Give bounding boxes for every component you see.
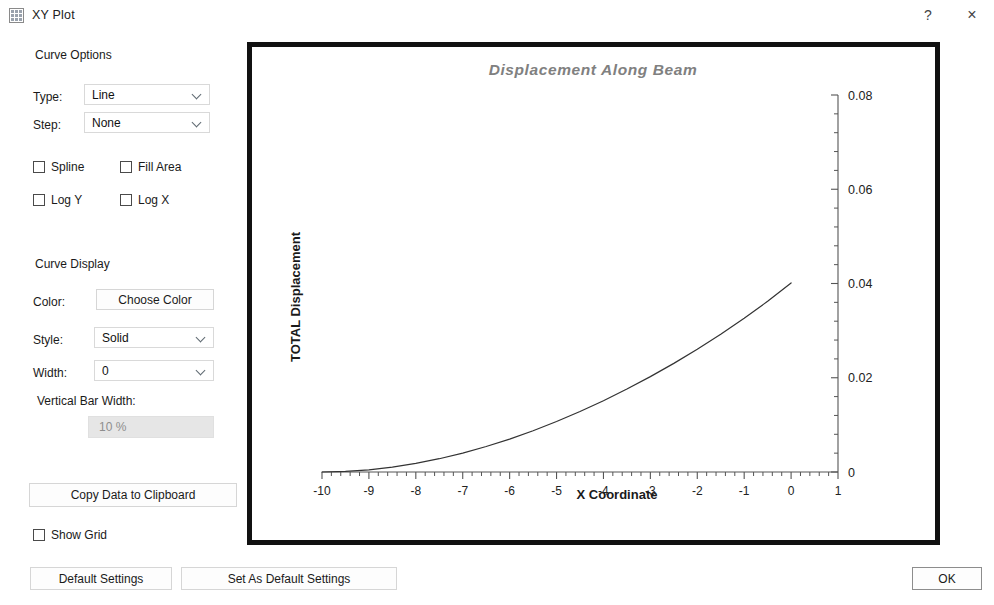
x-tick-label: -8	[410, 484, 421, 498]
chart-title: Displacement Along Beam	[489, 61, 698, 78]
x-tick-label: -4	[598, 484, 609, 498]
chart-series	[322, 283, 791, 472]
checkbox-box	[33, 161, 45, 173]
type-select-value: Line	[92, 88, 115, 102]
x-tick-label: -3	[645, 484, 656, 498]
checkbox-box	[120, 194, 132, 206]
checkbox-box	[33, 194, 45, 206]
width-label: Width:	[33, 366, 67, 380]
grid-icon	[9, 8, 24, 23]
titlebar-controls: ? ×	[906, 0, 994, 30]
width-select[interactable]: 0	[94, 360, 214, 381]
type-select[interactable]: Line	[84, 84, 210, 105]
close-button[interactable]: ×	[950, 0, 994, 30]
spline-checkbox[interactable]: Spline	[33, 160, 84, 174]
step-label: Step:	[33, 118, 61, 132]
style-select[interactable]: Solid	[94, 327, 214, 348]
x-tick-label: -1	[739, 484, 750, 498]
y-tick-label: 0	[848, 466, 855, 480]
chart-y-axis-label: TOTAL Displacement	[288, 231, 303, 362]
choose-color-button[interactable]: Choose Color	[96, 289, 214, 310]
x-tick-label: -6	[504, 484, 515, 498]
curve-line	[322, 283, 791, 472]
spline-checkbox-label: Spline	[51, 160, 84, 174]
y-tick-label: 0.08	[848, 89, 872, 103]
log-x-checkbox-label: Log X	[138, 193, 169, 207]
x-tick-label: 0	[788, 484, 795, 498]
default-settings-button[interactable]: Default Settings	[30, 567, 172, 590]
y-tick-label: 0.02	[848, 371, 872, 385]
xy-plot-chart: Displacement Along Beam TOTAL Displaceme…	[252, 47, 935, 540]
log-x-checkbox[interactable]: Log X	[120, 193, 169, 207]
width-select-value: 0	[102, 364, 109, 378]
y-tick-label: 0.04	[848, 277, 872, 291]
x-tick-label: -9	[364, 484, 375, 498]
style-select-value: Solid	[102, 331, 129, 345]
chevron-down-icon	[193, 118, 202, 127]
y-tick-label: 0.06	[848, 183, 872, 197]
fill-area-checkbox[interactable]: Fill Area	[120, 160, 181, 174]
checkbox-box	[120, 161, 132, 173]
chevron-down-icon	[197, 366, 206, 375]
type-label: Type:	[33, 90, 62, 104]
dialog-button-bar: Default Settings Set As Default Settings…	[0, 560, 994, 605]
help-button[interactable]: ?	[906, 0, 950, 30]
curve-options-heading: Curve Options	[35, 48, 112, 62]
chart-axes: -10-9-8-7-6-5-4-3-2-10100.020.040.060.08	[313, 89, 872, 499]
x-tick-label: -7	[457, 484, 468, 498]
chevron-down-icon	[193, 90, 202, 99]
vertical-bar-width-input: 10 %	[88, 416, 214, 438]
x-tick-label: -5	[551, 484, 562, 498]
ok-button[interactable]: OK	[912, 567, 982, 590]
window-title: XY Plot	[32, 8, 75, 22]
chevron-down-icon	[197, 333, 206, 342]
show-grid-checkbox-label: Show Grid	[51, 528, 107, 542]
window-titlebar: XY Plot ? ×	[0, 0, 994, 30]
x-tick-label: -10	[313, 484, 331, 498]
step-select[interactable]: None	[84, 112, 210, 133]
set-as-default-settings-button[interactable]: Set As Default Settings	[181, 567, 397, 590]
show-grid-checkbox[interactable]: Show Grid	[33, 528, 107, 542]
log-y-checkbox[interactable]: Log Y	[33, 193, 82, 207]
style-label: Style:	[33, 333, 63, 347]
step-select-value: None	[92, 116, 121, 130]
color-label: Color:	[33, 295, 65, 309]
x-tick-label: -2	[692, 484, 703, 498]
options-panel: Curve Options Type: Line Step: None Spli…	[0, 30, 247, 605]
log-y-checkbox-label: Log Y	[51, 193, 82, 207]
titlebar-left-group: XY Plot	[0, 8, 75, 23]
curve-display-heading: Curve Display	[35, 257, 110, 271]
checkbox-box	[33, 529, 45, 541]
fill-area-checkbox-label: Fill Area	[138, 160, 181, 174]
x-tick-label: 1	[835, 484, 842, 498]
copy-data-to-clipboard-button[interactable]: Copy Data to Clipboard	[29, 483, 237, 507]
vertical-bar-width-label: Vertical Bar Width:	[37, 394, 136, 408]
chart-frame: Displacement Along Beam TOTAL Displaceme…	[247, 42, 940, 545]
